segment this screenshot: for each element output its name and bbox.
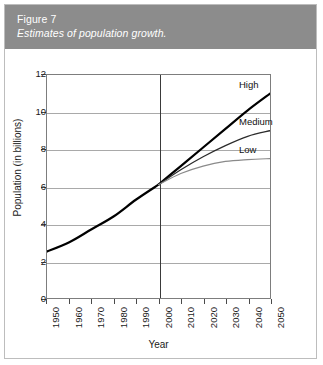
x-tick-label: 2030 [230, 307, 241, 328]
x-tick-label: 1960 [73, 307, 84, 328]
y-tick-label: 2 [12, 256, 46, 267]
figure-caption-banner: Figure 7 Estimates of population growth. [5, 5, 316, 49]
x-tick-mark [204, 299, 205, 304]
series-label-high: High [239, 79, 259, 90]
series-line-high [159, 94, 271, 185]
x-tick-label: 1990 [140, 307, 151, 328]
x-tick-mark [46, 299, 47, 304]
x-tick-label: 2020 [208, 307, 219, 328]
series-label-medium: Medium [239, 116, 273, 127]
series-label-low: Low [239, 144, 256, 155]
figure-title: Estimates of population growth. [17, 26, 316, 40]
x-tick-mark [136, 299, 137, 304]
x-tick-label: 2050 [275, 307, 286, 328]
x-tick-mark [226, 299, 227, 304]
series-line-historical [47, 185, 159, 252]
x-tick-mark [91, 299, 92, 304]
x-tick-label: 1950 [50, 307, 61, 328]
x-tick-mark [181, 299, 182, 304]
x-tick-label: 2010 [185, 307, 196, 328]
chart-plot-area: 024681012 Population (in billions) 19501… [5, 49, 316, 359]
x-tick-label: 1970 [95, 307, 106, 328]
x-tick-label: 2040 [253, 307, 264, 328]
x-tick-mark [271, 299, 272, 304]
x-tick-mark [114, 299, 115, 304]
x-tick-mark [249, 299, 250, 304]
y-axis-title: Population (in billions) [12, 88, 23, 248]
x-tick-mark [69, 299, 70, 304]
x-tick-label: 2000 [163, 307, 174, 328]
series-lines [47, 75, 270, 298]
figure-number: Figure 7 [17, 12, 316, 26]
x-tick-label: 1980 [118, 307, 129, 328]
y-tick-label: 12 [12, 68, 46, 79]
x-tick-mark [159, 299, 160, 304]
figure-container: Figure 7 Estimates of population growth.… [4, 4, 317, 359]
x-axis-title: Year [46, 339, 271, 350]
plot-frame [46, 74, 271, 299]
y-tick-label: 0 [12, 293, 46, 304]
